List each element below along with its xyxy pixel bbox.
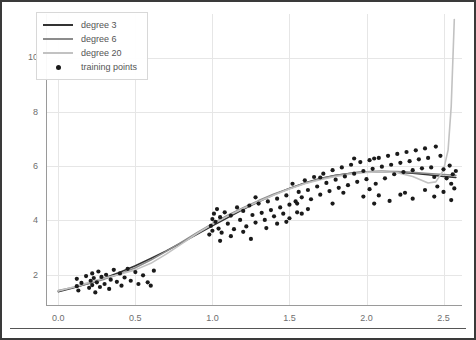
scatter-point xyxy=(315,184,319,188)
scatter-point xyxy=(403,191,407,195)
scatter-point xyxy=(398,161,402,165)
scatter-point xyxy=(152,269,156,273)
scatter-point xyxy=(249,237,253,241)
scatter-point xyxy=(226,222,230,226)
scatter-point xyxy=(235,205,239,209)
scatter-point xyxy=(361,169,365,173)
x-tick-label-0: 0.0 xyxy=(52,313,65,323)
scatter-point xyxy=(454,169,458,173)
scatter-point xyxy=(355,180,359,184)
scatter-point xyxy=(300,212,304,216)
legend-line-swatch xyxy=(43,34,73,44)
scatter-point xyxy=(377,156,381,160)
scatter-point xyxy=(300,195,304,199)
scatter-point xyxy=(324,181,328,185)
legend-item-3[interactable]: training points xyxy=(43,60,137,74)
scatter-point xyxy=(306,188,310,192)
scatter-point xyxy=(330,168,334,172)
x-tick-label-4: 2.0 xyxy=(360,313,373,323)
scatter-point xyxy=(312,175,316,179)
scatter-point xyxy=(118,271,122,275)
scatter-point xyxy=(386,154,390,158)
scatter-point xyxy=(361,194,365,198)
legend-line-swatch xyxy=(43,48,73,58)
scatter-point xyxy=(330,202,334,206)
scatter-point xyxy=(79,281,83,285)
scatter-point xyxy=(392,172,396,176)
scatter-point xyxy=(349,163,353,167)
legend-item-1[interactable]: degree 6 xyxy=(43,32,137,46)
scatter-point xyxy=(371,167,375,171)
scatter-point xyxy=(241,209,245,213)
scatter-point xyxy=(383,176,387,180)
scatter-point xyxy=(247,203,251,207)
scatter-point xyxy=(423,146,427,150)
scatter-point xyxy=(250,213,254,217)
scatter-point xyxy=(377,193,381,197)
scatter-point xyxy=(92,276,96,280)
scatter-point xyxy=(408,159,412,163)
legend-marker-swatch xyxy=(43,65,73,70)
scatter-point xyxy=(434,144,438,148)
legend-item-2[interactable]: degree 20 xyxy=(43,46,137,60)
scatter-point xyxy=(229,234,233,238)
scatter-point xyxy=(432,194,436,198)
legend-label: degree 3 xyxy=(81,20,117,30)
scatter-point xyxy=(253,221,257,225)
legend-line-swatch xyxy=(43,20,73,30)
scatter-point xyxy=(303,178,307,182)
chart-figure: 246810 0.00.51.01.52.02.5 degree 3degree… xyxy=(2,2,474,338)
scatter-point xyxy=(90,283,94,287)
scatter-point xyxy=(104,273,108,277)
scatter-point xyxy=(215,207,219,211)
y-tick-label-4: 10 xyxy=(2,52,38,62)
scatter-point xyxy=(223,210,227,214)
scatter-point xyxy=(149,284,153,288)
scatter-point xyxy=(207,232,211,236)
scatter-point xyxy=(401,170,405,174)
scatter-point xyxy=(263,218,267,222)
scatter-point xyxy=(109,278,113,282)
scatter-point xyxy=(352,156,356,160)
scatter-point xyxy=(99,275,103,279)
scatter-point xyxy=(141,273,145,277)
scatter-point xyxy=(295,202,299,206)
scatter-point xyxy=(216,226,220,230)
scatter-point xyxy=(241,230,245,234)
scatter-point xyxy=(346,183,350,187)
scatter-point xyxy=(229,213,233,217)
chart-legend[interactable]: degree 3degree 6degree 20training points xyxy=(36,12,148,80)
scatter-point xyxy=(411,197,415,201)
scatter-point xyxy=(449,182,453,186)
scatter-point xyxy=(318,175,322,179)
scatter-point xyxy=(129,279,133,283)
scatter-point xyxy=(438,154,442,158)
scatter-point xyxy=(372,156,376,160)
scatter-point xyxy=(429,165,433,169)
scatter-point xyxy=(380,165,384,169)
scatter-point xyxy=(218,239,222,243)
scatter-point xyxy=(115,280,119,284)
scatter-point xyxy=(266,199,270,203)
scatter-point xyxy=(257,202,261,206)
scatter-point xyxy=(417,157,421,161)
scatter-point xyxy=(213,220,217,224)
scatter-point xyxy=(119,284,123,288)
scatter-point xyxy=(309,197,313,201)
scatter-point xyxy=(341,191,345,195)
scatter-point xyxy=(290,182,294,186)
scatter-point xyxy=(451,172,455,176)
legend-item-0[interactable]: degree 3 xyxy=(43,18,137,32)
scatter-point xyxy=(287,203,291,207)
scatter-point xyxy=(327,189,331,193)
scatter-point xyxy=(414,148,418,152)
scatter-point xyxy=(444,176,448,180)
scatter-point xyxy=(372,202,376,206)
scatter-point xyxy=(441,167,445,171)
scatter-point xyxy=(210,229,214,233)
scatter-point xyxy=(306,207,310,211)
y-tick-label-3: 8 xyxy=(2,107,38,117)
scatter-point xyxy=(343,174,347,178)
scatter-point xyxy=(426,156,430,160)
scatter-point xyxy=(275,197,279,201)
